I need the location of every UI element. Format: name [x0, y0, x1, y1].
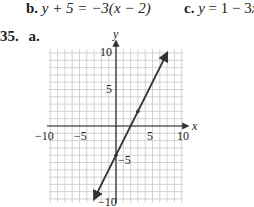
coordinate-graph: x y −10 −5 5 10 10 5 −5 −10 [0, 0, 254, 207]
x-tick-10: 10 [177, 129, 189, 143]
x-tick-neg5: −5 [74, 129, 87, 143]
point-y-intercept [114, 153, 118, 157]
y-tick-neg10: −10 [98, 195, 117, 207]
y-tick-5: 5 [106, 82, 112, 96]
x-tick-5: 5 [147, 129, 153, 143]
point-second [136, 110, 140, 114]
y-tick-10: 10 [100, 45, 112, 59]
x-tick-neg10: −10 [35, 129, 54, 143]
y-tick-neg5: −5 [118, 153, 131, 167]
y-axis-label: y [112, 27, 119, 41]
x-axis-label: x [191, 119, 198, 133]
